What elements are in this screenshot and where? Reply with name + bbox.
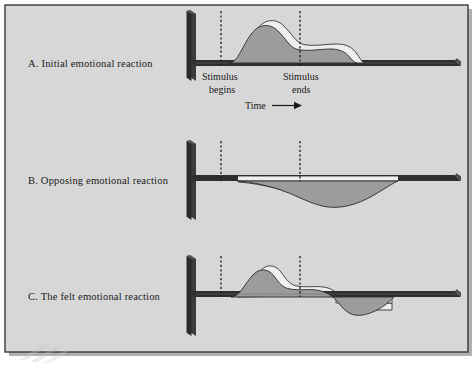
panel-b-label: B. Opposing emotional reaction: [28, 175, 169, 186]
solomon-opponent-process-figure: Stimulus begins Stimulus ends Time A. In…: [0, 0, 476, 365]
time-label: Time: [245, 100, 266, 111]
stimulus-begins-line2: begins: [209, 84, 235, 95]
panel-c-label: C. The felt emotional reaction: [28, 291, 161, 302]
stimulus-ends-line1: Stimulus: [283, 71, 319, 82]
panel-b-white-overlay: [238, 176, 398, 181]
stimulus-ends-line2: ends: [292, 84, 310, 95]
panel-a-vertical-post: [187, 10, 197, 81]
panel-a-label: A. Initial emotional reaction: [28, 58, 153, 69]
stimulus-begins-line1: Stimulus: [202, 71, 238, 82]
figure-container: Stimulus begins Stimulus ends Time A. In…: [0, 0, 476, 365]
